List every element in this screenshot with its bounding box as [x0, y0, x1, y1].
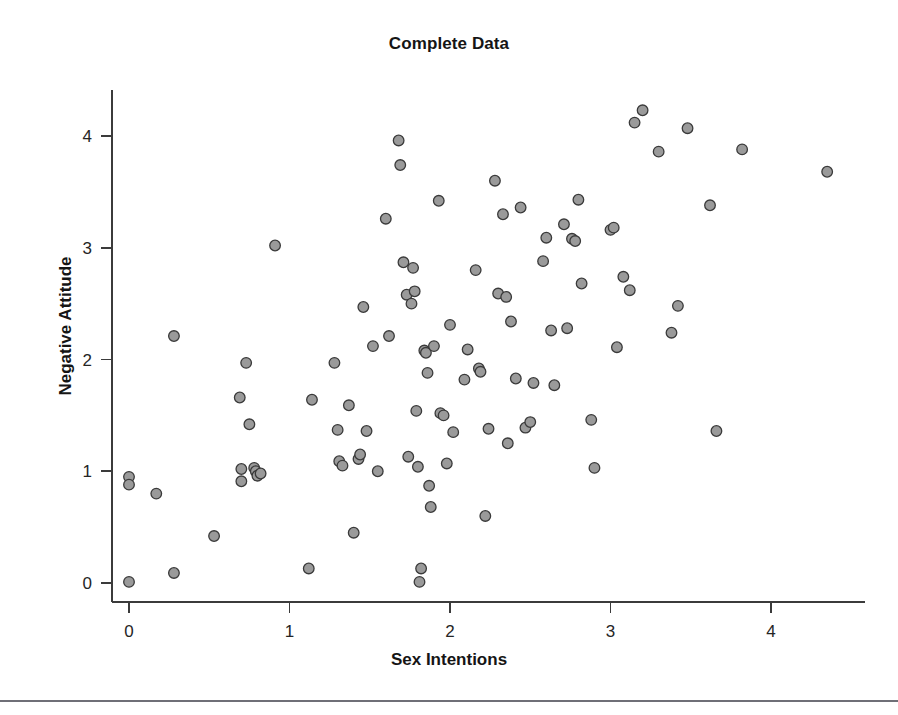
- scatter-point: [403, 451, 414, 462]
- scatter-point: [541, 232, 552, 243]
- scatter-point: [169, 568, 180, 579]
- scatter-point: [682, 123, 693, 134]
- scatter-point: [234, 392, 245, 403]
- scatter-point: [618, 272, 629, 283]
- scatter-point: [307, 394, 318, 405]
- scatter-point: [422, 368, 433, 379]
- scatter-point: [409, 286, 420, 297]
- scatter-point: [570, 236, 581, 247]
- scatter-point: [666, 327, 677, 338]
- scatter-point: [475, 366, 486, 377]
- scatter-point: [337, 460, 348, 471]
- scatter-point: [459, 374, 470, 385]
- scatter-point: [441, 458, 452, 469]
- scatter-point: [429, 341, 440, 352]
- scatter-point: [515, 202, 526, 213]
- scatter-point: [525, 417, 536, 428]
- scatter-point: [612, 342, 623, 353]
- scatter-point: [673, 301, 684, 312]
- scatter-point: [433, 196, 444, 207]
- scatter-point: [236, 464, 247, 475]
- figure-container: Complete Data 0123401234 Negative Attitu…: [0, 0, 898, 715]
- scatter-point: [368, 341, 379, 352]
- scatter-point: [483, 423, 494, 434]
- scatter-point: [559, 219, 570, 230]
- scatter-point: [506, 316, 517, 327]
- scatter-point: [608, 222, 619, 233]
- scatter-point: [586, 415, 597, 426]
- scatter-point: [653, 146, 664, 157]
- scatter-point: [501, 292, 512, 303]
- scatter-point: [424, 480, 435, 491]
- scatter-point: [538, 256, 549, 267]
- x-axis-label: Sex Intentions: [0, 650, 898, 670]
- scatter-point: [528, 378, 539, 389]
- scatter-point: [470, 265, 481, 276]
- scatter-point: [411, 406, 422, 417]
- scatter-point: [355, 449, 366, 460]
- scatter-point: [236, 476, 247, 487]
- scatter-point: [637, 105, 648, 116]
- scatter-point: [384, 331, 395, 342]
- scatter-point: [398, 257, 409, 268]
- scatter-point: [480, 511, 491, 522]
- scatter-point: [413, 461, 424, 472]
- scatter-point: [549, 380, 560, 391]
- scatter-point: [270, 240, 281, 251]
- y-tick-label: 4: [83, 127, 92, 146]
- scatter-point: [737, 144, 748, 155]
- scatter-point: [358, 302, 369, 313]
- scatter-point: [255, 468, 266, 479]
- scatter-point: [589, 463, 600, 474]
- scatter-point: [303, 563, 314, 574]
- footer-divider: [0, 700, 898, 702]
- scatter-point: [448, 427, 459, 438]
- scatter-point: [244, 419, 255, 430]
- scatter-point: [393, 135, 404, 146]
- scatter-point: [169, 331, 180, 342]
- scatter-point: [151, 488, 162, 499]
- y-tick-label: 0: [83, 574, 92, 593]
- scatter-point: [209, 531, 220, 542]
- scatter-point: [124, 479, 135, 490]
- x-tick-label: 0: [124, 622, 133, 641]
- scatter-point: [822, 166, 833, 177]
- x-tick-label: 2: [445, 622, 454, 641]
- scatter-point: [344, 400, 355, 411]
- scatter-point: [348, 527, 359, 538]
- scatter-point: [395, 160, 406, 171]
- y-axis-label: Negative Attitude: [56, 196, 76, 456]
- scatter-point: [381, 213, 392, 224]
- x-tick-label: 4: [766, 622, 775, 641]
- scatter-point: [562, 323, 573, 334]
- data-points-group: [124, 105, 833, 587]
- y-tick-label: 3: [83, 239, 92, 258]
- scatter-point: [372, 466, 383, 477]
- scatter-point: [438, 410, 449, 421]
- scatter-point: [408, 263, 419, 274]
- scatter-point: [502, 438, 513, 449]
- x-tick-label: 3: [606, 622, 615, 641]
- scatter-plot-canvas: 0123401234: [0, 0, 898, 715]
- scatter-point: [361, 426, 372, 437]
- scatter-point: [332, 425, 343, 436]
- scatter-point: [573, 194, 584, 205]
- scatter-point: [425, 502, 436, 513]
- scatter-point: [406, 298, 417, 309]
- scatter-point: [576, 278, 587, 289]
- scatter-point: [462, 344, 473, 355]
- scatter-point: [490, 175, 501, 186]
- y-tick-label: 2: [83, 351, 92, 370]
- scatter-point: [414, 577, 425, 588]
- scatter-point: [416, 563, 427, 574]
- scatter-point: [705, 200, 716, 211]
- scatter-point: [241, 358, 252, 369]
- y-tick-label: 1: [83, 462, 92, 481]
- scatter-point: [498, 209, 509, 220]
- scatter-point: [329, 358, 340, 369]
- x-tick-label: 1: [285, 622, 294, 641]
- scatter-point: [445, 320, 456, 331]
- scatter-point: [546, 325, 557, 336]
- scatter-point: [511, 373, 522, 384]
- scatter-point: [124, 577, 135, 588]
